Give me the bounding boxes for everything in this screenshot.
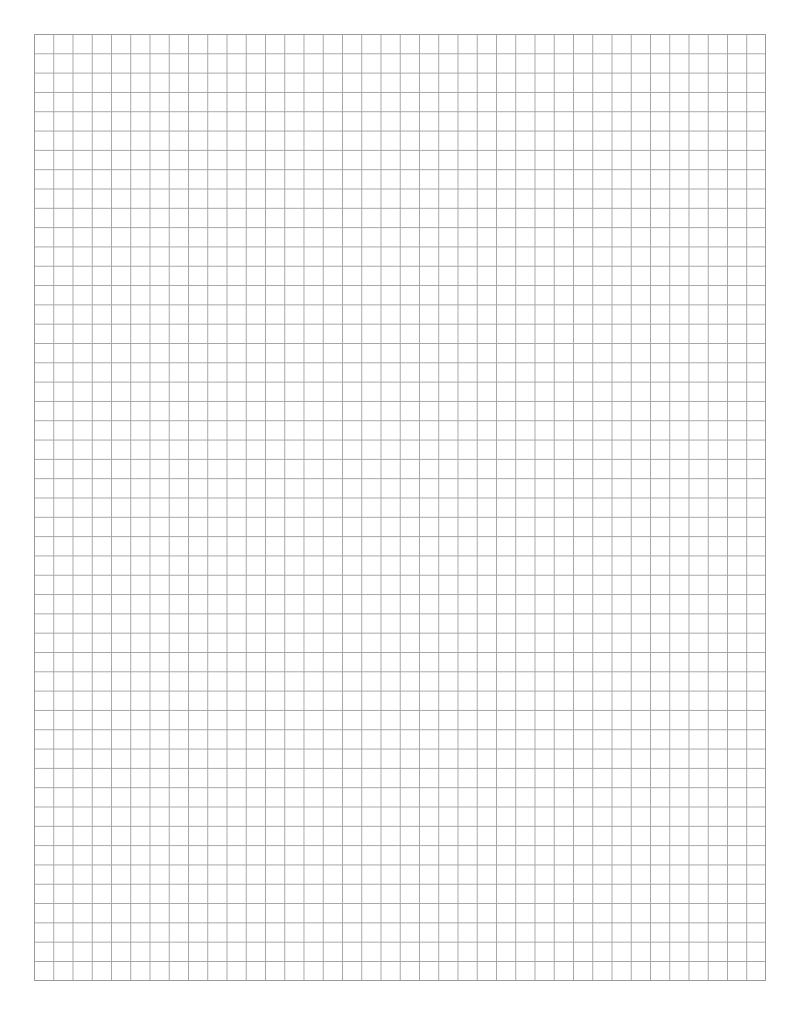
graph-paper-grid (34, 34, 766, 981)
